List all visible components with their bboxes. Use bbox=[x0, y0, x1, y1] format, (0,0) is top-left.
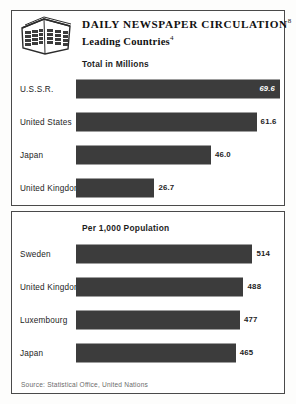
bar-country-label: United Kingdom bbox=[20, 282, 78, 291]
bar-sweden bbox=[76, 244, 252, 263]
bar-united-kingdom bbox=[76, 277, 243, 296]
table-row: United Kingdom 488 bbox=[12, 270, 284, 303]
bar-united-kingdom bbox=[76, 178, 154, 197]
source-note: Source: Statistical Office, United Natio… bbox=[21, 381, 148, 388]
panel-total-millions: DAILY NEWSPAPER CIRCULATION8 Leading Cou… bbox=[11, 10, 285, 206]
page-subtitle-footnote: 4 bbox=[170, 34, 174, 42]
title-block: DAILY NEWSPAPER CIRCULATION8 Leading Cou… bbox=[82, 15, 278, 47]
table-row: United Kingdom 26.7 bbox=[12, 171, 284, 204]
table-row: Japan 46.0 bbox=[12, 138, 284, 171]
bar-value: 465 bbox=[240, 348, 254, 357]
page-subtitle: Leading Countries4 bbox=[82, 32, 278, 48]
page-title: DAILY NEWSPAPER CIRCULATION8 bbox=[82, 15, 278, 31]
bar-country-label: United States bbox=[20, 117, 78, 126]
bar-rows-millions: U.S.S.R. 69.6 United States 61.6 Japan bbox=[12, 72, 284, 204]
page-subtitle-text: Leading Countries bbox=[82, 35, 170, 46]
bar-japan bbox=[76, 145, 211, 164]
bar-value: 69.6 bbox=[259, 84, 275, 93]
bar-track: 488 bbox=[76, 277, 280, 296]
bar-value: 488 bbox=[248, 282, 262, 291]
bar-country-label: Sweden bbox=[20, 249, 78, 258]
unit-label-per-1000: Per 1,000 Population bbox=[82, 223, 169, 233]
bar-track: 61.6 bbox=[76, 112, 280, 131]
bar-united-states bbox=[76, 112, 257, 131]
bar-rows-per-1000: Sweden 514 United Kingdom 488 Luxembourg… bbox=[12, 237, 284, 369]
bar-country-label: Japan bbox=[20, 348, 78, 357]
bar-country-label: United Kingdom bbox=[20, 183, 78, 192]
bar-japan bbox=[76, 343, 236, 362]
bar-value: 61.6 bbox=[261, 117, 277, 126]
bar-track: 26.7 bbox=[76, 178, 280, 197]
table-row: Japan 465 bbox=[12, 336, 284, 369]
bar-country-label: U.S.S.R. bbox=[20, 84, 78, 93]
table-row: Sweden 514 bbox=[12, 237, 284, 270]
bar-track: 69.6 bbox=[76, 79, 280, 98]
bar-country-label: Japan bbox=[20, 150, 78, 159]
table-row: Luxembourg 477 bbox=[12, 303, 284, 336]
unit-label-millions: Total in Millions bbox=[82, 59, 149, 69]
chart-page: DAILY NEWSPAPER CIRCULATION8 Leading Cou… bbox=[0, 0, 296, 404]
table-row: U.S.S.R. 69.6 bbox=[12, 72, 284, 105]
bar-track: 477 bbox=[76, 310, 280, 329]
bar-ussr: 69.6 bbox=[76, 79, 280, 98]
bar-value: 46.0 bbox=[215, 150, 231, 159]
bar-country-label: Luxembourg bbox=[20, 315, 78, 324]
chart-header: DAILY NEWSPAPER CIRCULATION8 Leading Cou… bbox=[12, 11, 284, 57]
bar-track: 465 bbox=[76, 343, 280, 362]
bar-value: 477 bbox=[244, 315, 258, 324]
page-title-footnote: 8 bbox=[288, 17, 292, 25]
bar-luxembourg bbox=[76, 310, 240, 329]
page-title-text: DAILY NEWSPAPER CIRCULATION bbox=[82, 18, 288, 30]
table-row: United States 61.6 bbox=[12, 105, 284, 138]
newspaper-icon bbox=[18, 15, 74, 57]
bar-value: 26.7 bbox=[158, 183, 174, 192]
bar-value: 514 bbox=[257, 249, 271, 258]
bar-track: 514 bbox=[76, 244, 280, 263]
panel-per-1000-population: Per 1,000 Population Sweden 514 United K… bbox=[11, 211, 285, 394]
bar-track: 46.0 bbox=[76, 145, 280, 164]
